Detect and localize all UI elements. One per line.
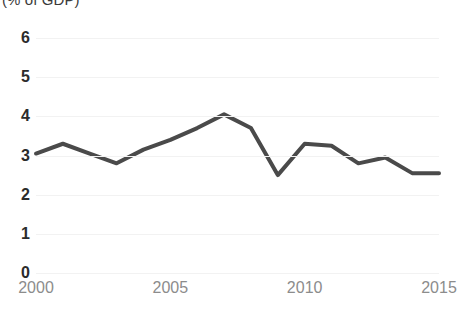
- x-axis: 2000200520102015: [36, 279, 439, 305]
- y-axis: 0123456: [0, 38, 30, 273]
- gridline-y-1: [36, 234, 439, 235]
- y-tick-label: 5: [21, 69, 30, 85]
- x-tick-label: 2015: [421, 279, 457, 297]
- y-tick-label: 4: [21, 108, 30, 124]
- y-tick-label: 6: [21, 30, 30, 46]
- gridline-y-4: [36, 116, 439, 117]
- gridline-y-5: [36, 77, 439, 78]
- chart-title: (% of GDP): [2, 0, 80, 8]
- x-tick-label: 2010: [287, 279, 323, 297]
- series-line-path: [36, 114, 439, 175]
- y-tick-label: 1: [21, 226, 30, 242]
- y-tick-label: 3: [21, 148, 30, 164]
- gridline-y-3: [36, 156, 439, 157]
- y-tick-label: 2: [21, 187, 30, 203]
- x-tick-label: 2000: [18, 279, 54, 297]
- gridline-y-2: [36, 195, 439, 196]
- gridline-y-0: [36, 273, 439, 274]
- gridline-y-6: [36, 38, 439, 39]
- x-tick-label: 2005: [153, 279, 189, 297]
- plot-area: [36, 38, 439, 273]
